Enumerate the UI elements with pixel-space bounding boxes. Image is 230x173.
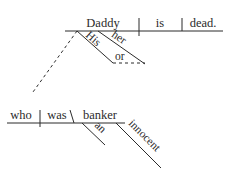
word-was: was (47, 108, 67, 122)
word-or: or (115, 50, 125, 62)
word-who: who (10, 108, 32, 122)
relative-clause-connector (33, 31, 77, 92)
word-is: is (156, 16, 164, 30)
word-innocent: innocent (127, 117, 164, 154)
word-dead: dead. (190, 16, 217, 30)
sentence-diagram: Daddy is dead. His her or who was banker… (0, 0, 230, 173)
word-his: His (84, 29, 104, 49)
rel-verb-complement-divider (70, 110, 74, 123)
